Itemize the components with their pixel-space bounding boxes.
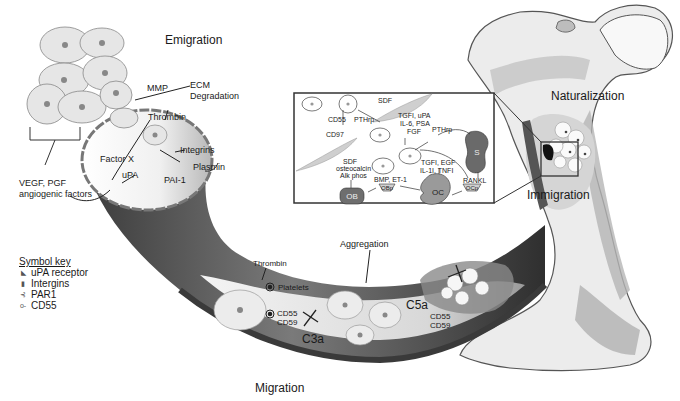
inset-label-sdf-2: SDF <box>343 158 357 165</box>
inset-label-cd97: CD97 <box>326 131 344 138</box>
label-degradation: Degradation <box>190 92 239 101</box>
label-plasmin: Plasmin <box>193 163 225 172</box>
symbol-key-item: ▮ Intergins <box>19 278 88 289</box>
inset-label-tgf-3: FGF <box>407 128 421 135</box>
label-pai1: PAI-1 <box>164 176 186 185</box>
label-thrombin-migration: Thrombin <box>253 260 287 268</box>
inset-label-pthrp-2: PTHrp <box>432 126 452 133</box>
inset-s-cell: S <box>471 146 483 158</box>
cd55-icon: o- <box>19 302 27 309</box>
symbol-key: Symbol key ◣ uPA receptor ▮ Intergins ⊰ … <box>19 256 88 311</box>
emigrating-tumor-cells <box>27 27 138 128</box>
inset-label-cd55: CD55 <box>328 116 346 123</box>
label-integrins: Integrins <box>180 146 215 155</box>
stage-migration: Migration <box>255 382 304 394</box>
label-angiogenic-factors: angiogenic factors <box>19 190 92 199</box>
inset-label-tgf2-2: IL-1I, TNFI <box>420 167 453 174</box>
symbol-key-item: ⊰ PAR1 <box>19 289 88 300</box>
integrin-icon: ▮ <box>19 280 27 288</box>
upa-receptor-icon: ◣ <box>19 269 27 277</box>
label-vegf-pgf: VEGF, PGF <box>19 179 66 188</box>
label-mmp: MMP <box>147 84 168 93</box>
inset-ob-cell: OB <box>340 188 364 204</box>
stage-naturalization: Naturalization <box>551 90 624 102</box>
label-cd55: CD55 <box>277 310 297 318</box>
inset-label-bmp: BMP, ET-1 <box>374 176 407 183</box>
symbol-key-item: ◣ uPA receptor <box>19 267 88 278</box>
stage-emigration: Emigration <box>165 34 222 46</box>
inset-label-pthrp: PTHrp <box>354 116 374 123</box>
label-cd59-b: CD59 <box>430 322 450 330</box>
inset-label-sdf: SDF <box>378 97 392 104</box>
label-ecm: ECM <box>190 81 210 90</box>
inset-label-osteocalcin: osteocalcin <box>336 165 371 172</box>
inset-label-tgf2-1: TGFI, EGF <box>421 159 455 166</box>
label-upa: uPA <box>122 171 138 180</box>
label-platelets: Platelets <box>278 284 309 292</box>
label-factor-x: Factor X <box>100 155 134 164</box>
label-thrombin: Thrombin <box>148 113 186 122</box>
inset-label-alk-phos: Alk phos <box>340 172 367 179</box>
symbol-key-title: Symbol key <box>19 256 88 267</box>
label-c3a: C3a <box>302 333 324 345</box>
label-cd55-b: CD55 <box>430 313 450 321</box>
stage-aggregation: Aggregation <box>340 240 389 249</box>
inset-label-rankl: RANKL <box>463 177 486 184</box>
inset-ocp-cell: OCp <box>463 184 481 191</box>
par1-icon: ⊰ <box>19 291 27 299</box>
inset-label-tgf-2: IL-6, PSA <box>400 120 430 127</box>
inset-label-tgf-1: TGFI, uPA <box>398 112 431 119</box>
inset-oc-cell: OC <box>428 184 448 200</box>
symbol-key-item: o- CD55 <box>19 300 88 311</box>
label-cd59: CD59 <box>277 319 297 327</box>
label-c5a: C5a <box>406 299 428 311</box>
inset-obp-cell: OBp <box>379 184 395 191</box>
stage-immigration: Immigration <box>527 189 590 201</box>
